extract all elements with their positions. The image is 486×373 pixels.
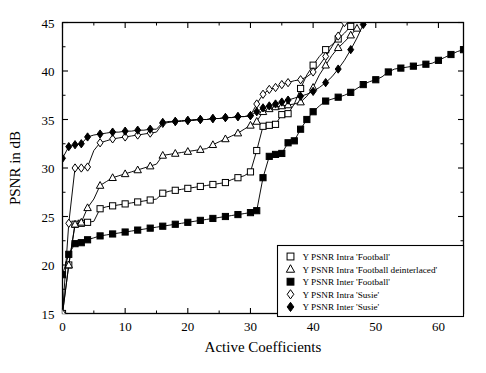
data-point bbox=[222, 179, 228, 185]
data-point bbox=[398, 65, 404, 71]
y-axis-label: PSNR in dB bbox=[7, 131, 23, 205]
data-point bbox=[304, 116, 310, 122]
legend-label-4: Y PSNR Inter 'Susie' bbox=[303, 302, 380, 312]
data-point bbox=[279, 112, 285, 118]
data-point bbox=[247, 169, 253, 175]
x-tick-label: 0 bbox=[59, 319, 66, 334]
data-point bbox=[335, 94, 341, 100]
data-point bbox=[285, 140, 291, 146]
data-point bbox=[254, 147, 260, 153]
data-point bbox=[84, 219, 90, 225]
y-tick-label: 30 bbox=[42, 161, 55, 176]
data-point bbox=[260, 175, 266, 181]
data-point bbox=[360, 82, 366, 88]
data-point bbox=[72, 241, 78, 247]
y-tick-label: 25 bbox=[42, 210, 55, 225]
data-point bbox=[310, 109, 316, 115]
data-point bbox=[410, 63, 416, 69]
data-point bbox=[160, 190, 166, 196]
data-point bbox=[210, 215, 216, 221]
data-point bbox=[172, 221, 178, 227]
chart-svg: 010203040506015202530354045Active Coeffi… bbox=[0, 0, 486, 373]
data-point bbox=[323, 98, 329, 104]
data-point bbox=[185, 185, 191, 191]
x-axis-label: Active Coefficients bbox=[205, 339, 322, 355]
data-point bbox=[147, 225, 153, 231]
data-point bbox=[122, 229, 128, 235]
x-tick-label: 20 bbox=[181, 319, 194, 334]
x-tick-label: 30 bbox=[244, 319, 257, 334]
data-point bbox=[197, 217, 203, 223]
data-point bbox=[135, 199, 141, 205]
y-tick-label: 40 bbox=[42, 64, 55, 79]
chart-figure: 010203040506015202530354045Active Coeffi… bbox=[0, 0, 486, 373]
data-point bbox=[348, 89, 354, 95]
data-point bbox=[279, 150, 285, 156]
data-point bbox=[147, 197, 153, 203]
data-point bbox=[272, 121, 278, 127]
data-point bbox=[185, 219, 191, 225]
data-point bbox=[97, 233, 103, 239]
data-point bbox=[448, 51, 454, 57]
data-point bbox=[460, 47, 466, 53]
y-tick-label: 45 bbox=[42, 16, 55, 31]
data-point bbox=[266, 122, 272, 128]
data-point bbox=[266, 153, 272, 159]
data-point bbox=[291, 138, 297, 144]
y-tick-label: 15 bbox=[42, 307, 55, 322]
data-point bbox=[272, 151, 278, 157]
data-point bbox=[285, 111, 291, 117]
x-tick-label: 60 bbox=[432, 319, 445, 334]
x-tick-label: 10 bbox=[119, 319, 132, 334]
y-tick-label: 35 bbox=[42, 113, 55, 128]
data-point bbox=[210, 181, 216, 187]
legend: Y PSNR Intra 'Football'Y PSNR Intra 'Foo… bbox=[278, 246, 464, 317]
data-point bbox=[110, 231, 116, 237]
data-point bbox=[122, 201, 128, 207]
data-point bbox=[160, 223, 166, 229]
data-point bbox=[97, 206, 103, 212]
data-point bbox=[385, 69, 391, 75]
legend-label-1: Y PSNR Intra 'Football deinterlaced' bbox=[303, 265, 438, 275]
data-point bbox=[373, 77, 379, 83]
y-tick-label: 20 bbox=[42, 258, 55, 273]
data-point bbox=[235, 211, 241, 217]
legend-label-2: Y PSNR Inter 'Football' bbox=[303, 277, 391, 287]
x-tick-label: 50 bbox=[369, 319, 382, 334]
legend-label-0: Y PSNR Intra 'Football' bbox=[303, 252, 391, 262]
legend-label-3: Y PSNR Intra 'Susie' bbox=[303, 290, 380, 300]
data-point bbox=[235, 175, 241, 181]
data-point bbox=[423, 61, 429, 67]
data-point bbox=[172, 187, 178, 193]
x-tick-label: 40 bbox=[307, 319, 320, 334]
data-point bbox=[110, 203, 116, 209]
data-point bbox=[84, 237, 90, 243]
legend-marker-0 bbox=[287, 253, 294, 260]
data-point bbox=[135, 227, 141, 233]
data-point bbox=[197, 183, 203, 189]
data-point bbox=[78, 240, 84, 246]
data-point bbox=[298, 126, 304, 132]
data-point bbox=[298, 85, 304, 91]
data-point bbox=[222, 213, 228, 219]
legend-marker-2 bbox=[287, 278, 294, 285]
data-point bbox=[247, 210, 253, 216]
data-point bbox=[348, 23, 354, 29]
data-point bbox=[435, 57, 441, 63]
data-point bbox=[254, 208, 260, 214]
